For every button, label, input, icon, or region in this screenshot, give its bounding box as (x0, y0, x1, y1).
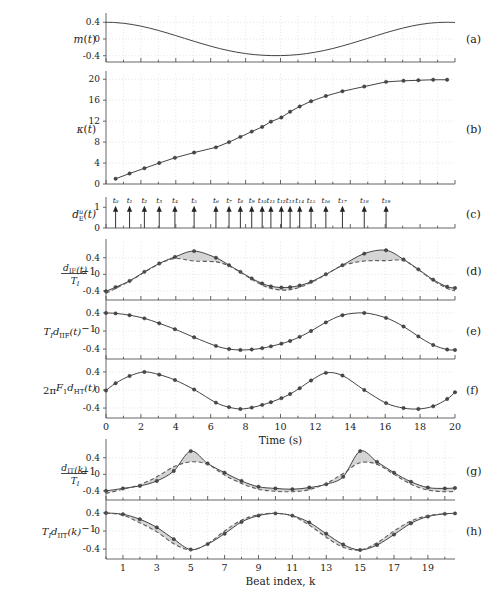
data-marker (143, 167, 146, 170)
data-marker (173, 378, 176, 381)
y-tick-label: 0.4 (86, 253, 101, 263)
data-marker (143, 317, 146, 320)
data-marker (114, 177, 117, 180)
data-marker (375, 460, 378, 463)
shaded-region (106, 451, 455, 494)
data-marker (214, 401, 217, 404)
data-marker (402, 406, 405, 409)
data-marker (402, 325, 405, 328)
data-marker (114, 382, 117, 385)
data-marker (214, 146, 217, 149)
data-marker (363, 85, 366, 88)
data-marker (341, 543, 344, 546)
data-marker (341, 313, 344, 316)
data-marker (128, 313, 131, 316)
ylabel-d-denominator: TI (71, 275, 80, 288)
beat-time-label: t₈ (237, 196, 243, 205)
data-marker (341, 374, 344, 377)
data-marker (192, 336, 195, 339)
y-tick-label: 0.4 (86, 17, 101, 27)
beat-time-label: t₁₁ (267, 196, 276, 205)
data-marker (384, 80, 387, 83)
data-marker (257, 485, 260, 488)
beat-time-label: t₂ (141, 196, 147, 205)
panel-c: 10t₀t₁t₂t₃t₄t₅t₆t₇t₈t₉t₁₀t₁₁t₁₂t₁₃t₁₄t₁₅… (94, 196, 455, 233)
beat-time-label: t₁₅ (307, 196, 316, 205)
data-marker (308, 521, 311, 524)
panel-d: 0.40-0.4 (83, 239, 457, 300)
impulse-arrowhead (157, 206, 162, 212)
x-tick-label: 2 (138, 421, 144, 432)
data-marker (260, 282, 263, 285)
impulse-arrowhead (383, 206, 388, 212)
data-marker (324, 321, 327, 324)
ylabel-f: 2πF1dHT(t) (43, 382, 96, 396)
y-tick-label: 0 (94, 179, 100, 189)
data-marker (309, 379, 312, 382)
data-marker (288, 339, 291, 342)
data-marker (223, 532, 226, 535)
data-curve-solid (106, 250, 455, 291)
data-marker (172, 469, 175, 472)
y-tick-label: -0.4 (83, 286, 101, 296)
data-marker (445, 397, 448, 400)
panel-h: 0.40-0.4135791113151719Beat index, k (83, 500, 457, 587)
beat-time-label: t₁₈ (360, 196, 369, 205)
x-axis-label-beat: Beat index, k (246, 575, 316, 587)
data-marker (308, 486, 311, 489)
data-marker (417, 407, 420, 410)
x-tick-label: 7 (222, 562, 228, 573)
panel-letter-e: (e) (466, 325, 481, 338)
data-marker (280, 116, 283, 119)
beat-time-label: t₇ (226, 196, 232, 205)
y-tick-label: 0 (94, 223, 100, 233)
data-marker (104, 489, 107, 492)
impulse-arrowhead (113, 206, 118, 212)
data-marker (392, 533, 395, 536)
impulse-arrowhead (297, 206, 302, 212)
data-marker (325, 532, 328, 535)
impulse-arrowhead (362, 206, 367, 212)
data-marker (250, 348, 253, 351)
data-marker (298, 284, 301, 287)
ylabel-h: TIdIIT(k)−1 (42, 523, 96, 539)
data-marker (280, 286, 283, 289)
data-marker (431, 78, 434, 81)
data-marker (324, 371, 327, 374)
beat-time-label: t₁₇ (338, 196, 347, 205)
beat-time-label: t₁₆ (322, 196, 331, 205)
data-marker (239, 407, 242, 410)
data-marker (214, 256, 217, 259)
data-marker (280, 342, 283, 345)
data-curve-solid (116, 80, 448, 179)
data-marker (260, 403, 263, 406)
panel-letter-d: (d) (466, 265, 482, 278)
data-marker (324, 94, 327, 97)
panel-a: 0.40-0.4 (83, 13, 455, 62)
x-tick-label: 12 (309, 421, 321, 432)
ylabel-b: κ(t) (76, 123, 96, 135)
panel-e: 0.40-0.4 (83, 300, 457, 359)
data-marker (341, 90, 344, 93)
panel-g: 0.40-0.4 (83, 439, 457, 500)
x-tick-label: 8 (243, 421, 249, 432)
y-tick-label: -0.4 (83, 403, 101, 413)
data-marker (309, 100, 312, 103)
data-marker (240, 479, 243, 482)
data-marker (189, 449, 192, 452)
impulse-arrowhead (213, 206, 218, 212)
beat-time-label: t₆ (213, 196, 219, 205)
beat-time-label: t₅ (191, 196, 197, 205)
ylabel-d: −1dIF(t)TI (61, 262, 96, 288)
panel-letter-f: (f) (466, 384, 479, 397)
data-marker (155, 479, 158, 482)
figure-svg: 0.40-0.4(a)048121620(b)10t₀t₁t₂t₃t₄t₅t₆t… (0, 0, 501, 592)
impulse-arrowhead (249, 206, 254, 212)
data-marker (417, 79, 420, 82)
data-marker (453, 486, 456, 489)
y-tick-label: -0.4 (83, 544, 101, 554)
impulse-arrowhead (308, 206, 313, 212)
data-marker (309, 329, 312, 332)
x-tick-label: 9 (255, 562, 261, 573)
data-marker (158, 161, 161, 164)
